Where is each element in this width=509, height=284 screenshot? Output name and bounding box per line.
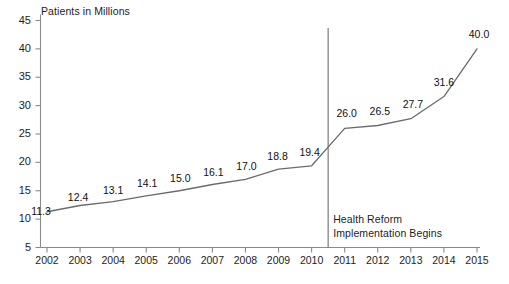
health-reform-annotation-line1: Health Reform	[333, 213, 402, 225]
x-axis-tick-label: 2009	[262, 254, 296, 266]
data-point-label: 31.6	[427, 76, 461, 88]
data-point-label: 40.0	[462, 28, 496, 40]
data-point-label: 26.5	[363, 105, 397, 117]
data-point-label: 26.0	[330, 107, 364, 119]
x-axis-tick-label: 2006	[162, 254, 196, 266]
data-point-label: 14.1	[130, 177, 164, 189]
y-axis-tick-label: 15	[9, 184, 31, 196]
x-axis-tick-label: 2013	[394, 254, 428, 266]
health-reform-annotation-line2: Implementation Begins	[333, 227, 442, 239]
y-axis-tick-label: 5	[9, 241, 31, 253]
y-axis-tick-label: 20	[9, 155, 31, 167]
data-point-label: 12.4	[61, 191, 95, 203]
data-point-label: 27.7	[396, 98, 430, 110]
chart-container: Patients in Millions 4540353025201510520…	[0, 0, 509, 284]
y-axis-tick-label: 30	[9, 99, 31, 111]
data-point-label: 13.1	[96, 184, 130, 196]
data-point-label: 19.4	[293, 146, 327, 158]
x-axis-tick-label: 2012	[361, 254, 395, 266]
y-axis-tick-label: 35	[9, 70, 31, 82]
chart-plot-area	[0, 0, 509, 284]
data-point-label: 11.3	[24, 205, 58, 217]
x-axis-tick-label: 2010	[295, 254, 329, 266]
x-axis-tick-label: 2014	[427, 254, 461, 266]
x-axis-tick-label: 2015	[460, 254, 494, 266]
y-axis-tick-label: 45	[9, 14, 31, 26]
x-axis-tick-label: 2007	[195, 254, 229, 266]
x-axis-tick-label: 2008	[228, 254, 262, 266]
x-axis-tick-label: 2002	[30, 254, 64, 266]
data-point-label: 18.8	[261, 150, 295, 162]
source-note	[4, 274, 509, 284]
x-axis-tick-label: 2011	[328, 254, 362, 266]
y-axis-tick-label: 25	[9, 127, 31, 139]
x-axis-tick-label: 2003	[63, 254, 97, 266]
x-axis-tick-label: 2005	[129, 254, 163, 266]
data-point-label: 17.0	[229, 160, 263, 172]
y-axis-tick-label: 40	[9, 42, 31, 54]
x-axis-tick-label: 2004	[96, 254, 130, 266]
data-point-label: 15.0	[163, 172, 197, 184]
data-point-label: 16.1	[196, 166, 230, 178]
